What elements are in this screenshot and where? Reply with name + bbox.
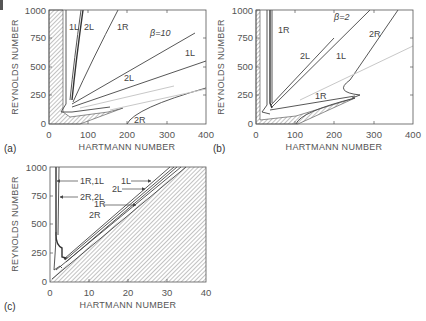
x-tick-label: 200 xyxy=(326,129,342,140)
curve-label-2R: 2R xyxy=(89,210,101,220)
curve-boundary-left xyxy=(262,10,270,114)
x-tick-label: 200 xyxy=(119,129,135,140)
y-tick-label: 500 xyxy=(237,61,253,72)
curve-label-2R: 2R xyxy=(134,115,146,125)
x-axis-title: HARTMANN NUMBER xyxy=(79,142,176,152)
y-tick-label: 0 xyxy=(248,118,253,129)
x-axis-title: HARTMANN NUMBER xyxy=(286,142,383,152)
x-tick-label: 0 xyxy=(253,129,258,140)
y-ticks xyxy=(256,38,413,95)
y-axis-title: REYNOLDS NUMBER xyxy=(10,176,20,272)
curve-label-2L: 2L xyxy=(112,184,122,194)
y-tick-label: 500 xyxy=(31,218,47,229)
y-tick-label: 250 xyxy=(237,89,253,100)
curve-gray-1 xyxy=(80,86,174,108)
y-tick-label: 1000 xyxy=(232,5,253,16)
curve-gray-2 xyxy=(110,89,206,110)
x-tick-label: 300 xyxy=(366,129,382,140)
curve-label-2L: 2L xyxy=(84,22,94,32)
curve-inner-left xyxy=(54,232,56,270)
x-tick-label: 400 xyxy=(198,129,214,140)
x-tick-label: 0 xyxy=(46,129,51,140)
panel-c: 0 10 20 30 40 0 250 500 750 1000 HARTMAN… xyxy=(4,162,211,312)
x-tick-label: 10 xyxy=(84,287,95,298)
y-tick-label: 1000 xyxy=(26,162,47,173)
curve-label-2L-lower: 2L xyxy=(124,73,134,83)
panel-a: 0 100 200 300 400 0 250 500 750 1000 HAR… xyxy=(4,5,214,154)
y-tick-label: 750 xyxy=(237,32,253,43)
y-tick-label: 0 xyxy=(42,276,47,287)
x-tick-label: 300 xyxy=(159,129,175,140)
y-tick-label: 1000 xyxy=(25,5,46,16)
curve-label-1R: 1R xyxy=(94,199,106,209)
curve-label-1L: 1L xyxy=(336,51,346,61)
curve-label-1R-lower: 1R xyxy=(315,91,327,101)
panel-label: (a) xyxy=(4,143,16,154)
x-tick-label: 40 xyxy=(201,287,212,298)
y-ticks xyxy=(50,196,53,253)
x-tick-label: 100 xyxy=(287,129,303,140)
curve-label-1R-1L: 1R,1L xyxy=(80,176,104,186)
figure: 0 100 200 300 400 0 250 500 750 1000 HAR… xyxy=(0,0,426,321)
y-tick-label: 500 xyxy=(30,61,46,72)
y-tick-label: 750 xyxy=(30,32,46,43)
x-axis-title: HARTMANN NUMBER xyxy=(80,300,177,310)
x-tick-label: 100 xyxy=(80,129,96,140)
x-tick-label: 20 xyxy=(123,287,134,298)
curve-label-1L: 1L xyxy=(69,22,79,32)
y-tick-label: 250 xyxy=(31,247,47,258)
beta-annotation: β=10 xyxy=(149,28,170,38)
curve-label-1L: 1L xyxy=(121,176,131,186)
y-ticks xyxy=(49,38,206,95)
crop-mark xyxy=(0,0,3,10)
beta-annotation: β=2 xyxy=(333,12,349,22)
curve-2L-lower xyxy=(72,33,195,104)
y-axis-title: REYNOLDS NUMBER xyxy=(216,19,226,115)
x-tick-label: 400 xyxy=(405,129,421,140)
y-tick-label: 0 xyxy=(41,118,46,129)
y-tick-label: 750 xyxy=(31,190,47,201)
curve-label-2L: 2L xyxy=(300,51,310,61)
curve-label-2R: 2R xyxy=(369,29,381,39)
curve-label-1R: 1R xyxy=(117,22,129,32)
x-tick-label: 0 xyxy=(47,287,52,298)
x-tick-label: 30 xyxy=(162,287,173,298)
curve-2R-2L xyxy=(58,167,59,235)
y-tick-label: 250 xyxy=(30,89,46,100)
curve-label-1R: 1R xyxy=(278,25,290,35)
panel-b: 0 100 200 300 400 0 250 500 750 1000 HAR… xyxy=(213,5,421,154)
y-axis-title: REYNOLDS NUMBER xyxy=(10,19,20,115)
curve-1R xyxy=(73,10,118,102)
panel-label: (c) xyxy=(4,301,16,312)
curve-2R xyxy=(343,10,398,98)
curve-1L-lower xyxy=(72,61,206,107)
curve-label-1L-lower: 1L xyxy=(185,48,195,58)
panel-label: (b) xyxy=(213,143,225,154)
